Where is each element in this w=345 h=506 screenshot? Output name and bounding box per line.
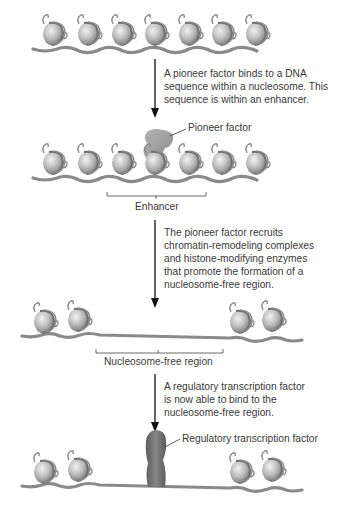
step-2-description: The pioneer factor recruits chromatin-re… (164, 226, 324, 291)
chromatin-stage-1 (33, 15, 270, 53)
arrow-step-3 (151, 374, 159, 432)
enhancer-label: Enhancer (135, 201, 179, 213)
regulatory-transcription-factor-shape (146, 430, 166, 487)
regulatory-transcription-factor-label: Regulatory transcription factor (182, 433, 318, 445)
enhancer-bracket (107, 192, 206, 199)
step-1-description: A pioneer factor binds to a DNA sequence… (164, 67, 334, 106)
chromatin-stage-2 (33, 129, 270, 199)
chromatin-stage-3 (22, 301, 302, 353)
arrow-step-2 (151, 220, 159, 308)
arrow-step-1 (151, 59, 159, 118)
pioneer-factor-label: Pioneer factor (188, 122, 251, 134)
step-3-description: A regulatory transcription factor is now… (164, 380, 314, 419)
nucleosome-free-bracket (96, 349, 223, 353)
nucleosome-free-region-label: Nucleosome-free region (104, 356, 213, 368)
